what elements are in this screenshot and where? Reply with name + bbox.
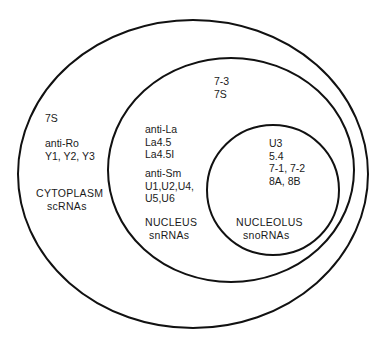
nucleus-rna-class: snRNAs [145, 229, 197, 242]
nucleus-title: NUCLEUS [145, 216, 197, 229]
nucleus-top-items: 7-3 7S [214, 75, 229, 100]
anti-sm-item: U1,U2,U4, [145, 180, 194, 193]
anti-ro-items: Y1, Y2, Y3 [45, 150, 95, 163]
nucleus-title-group: NUCLEUS snRNAs [145, 216, 197, 241]
nucleolus-item: 5.4 [269, 150, 305, 163]
anti-sm-label: anti-Sm [145, 167, 194, 180]
nucleolus-items: U3 5.4 7-1, 7-2 8A, 8B [269, 137, 305, 187]
cytoplasm-title: CYTOPLASM [36, 187, 103, 200]
anti-la-label: anti-La [145, 123, 177, 136]
cytoplasm-item: 7S [45, 112, 58, 125]
cytoplasm-7s-label: 7S [45, 112, 58, 125]
anti-ro-group: anti-Ro Y1, Y2, Y3 [45, 137, 95, 162]
anti-sm-group: anti-Sm U1,U2,U4, U5,U6 [145, 167, 194, 205]
nucleolus-title: NUCLEOLUS [236, 216, 303, 229]
nucleolus-rna-class: snoRNAs [236, 229, 303, 242]
nucleus-item-7s: 7S [214, 88, 229, 101]
nucleolus-item: 7-1, 7-2 [269, 162, 305, 175]
nucleolus-item: U3 [269, 137, 305, 150]
nucleus-item-7-3: 7-3 [214, 75, 229, 88]
nucleolus-item: 8A, 8B [269, 175, 305, 188]
nucleolus-title-group: NUCLEOLUS snoRNAs [236, 216, 303, 241]
anti-sm-item: U5,U6 [145, 192, 194, 205]
anti-ro-label: anti-Ro [45, 137, 95, 150]
cytoplasm-title-group: CYTOPLASM scRNAs [36, 187, 103, 212]
cytoplasm-rna-class: scRNAs [36, 200, 103, 213]
anti-la-item: La4.5 [145, 136, 177, 149]
anti-la-item: La4.5I [145, 148, 177, 161]
anti-la-group: anti-La La4.5 La4.5I [145, 123, 177, 161]
